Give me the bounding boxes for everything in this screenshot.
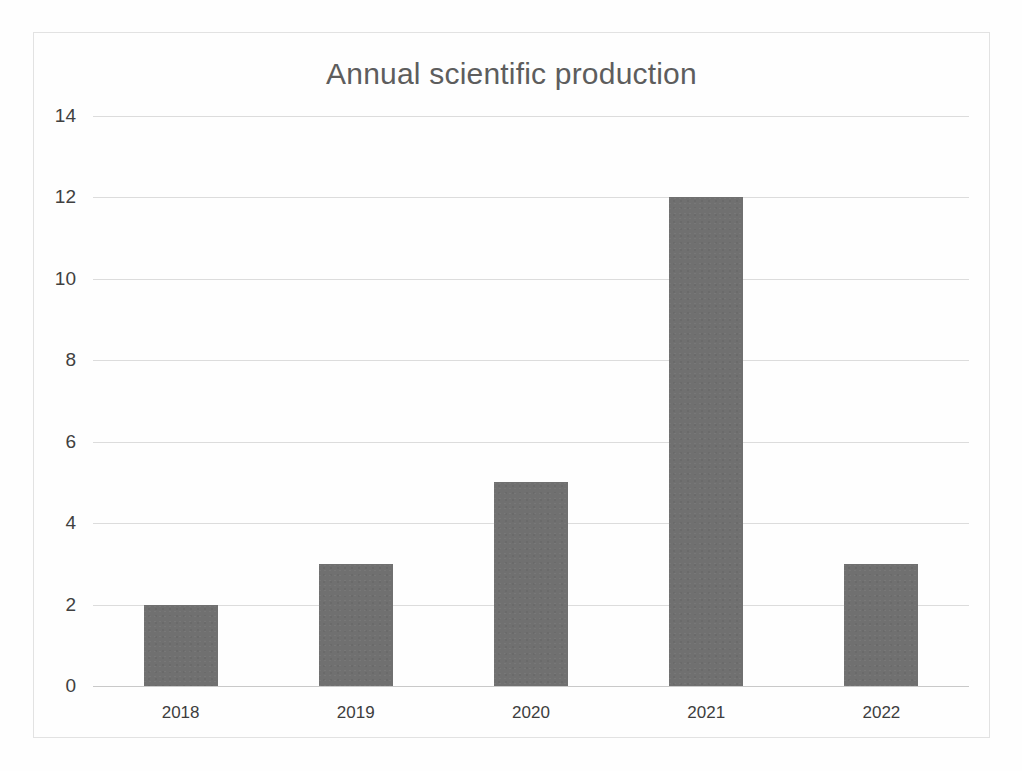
y-axis-label-6: 6	[65, 431, 76, 453]
bar-2018[interactable]	[144, 605, 218, 686]
y-axis-label-8: 8	[65, 349, 76, 371]
x-axis-label-2020: 2020	[512, 703, 550, 723]
y-axis-label-14: 14	[55, 105, 76, 127]
bars-group: 20182019202020212022	[93, 116, 969, 686]
chart-frame: Annual scientific production 02468101214…	[33, 32, 990, 738]
x-axis-label-2022: 2022	[862, 703, 900, 723]
y-axis-label-10: 10	[55, 268, 76, 290]
plot-area: 02468101214 20182019202020212022	[93, 116, 969, 686]
y-axis-label-12: 12	[55, 186, 76, 208]
gridline-0	[93, 686, 969, 687]
chart-title: Annual scientific production	[34, 57, 989, 91]
y-axis-label-2: 2	[65, 594, 76, 616]
bar-group-2020: 2020	[443, 116, 618, 686]
y-axis-label-0: 0	[65, 675, 76, 697]
x-axis-label-2021: 2021	[687, 703, 725, 723]
x-axis-label-2018: 2018	[162, 703, 200, 723]
bar-group-2018: 2018	[93, 116, 268, 686]
x-axis-label-2019: 2019	[337, 703, 375, 723]
bar-2019[interactable]	[319, 564, 393, 686]
bar-group-2022: 2022	[794, 116, 969, 686]
bar-2020[interactable]	[494, 482, 568, 686]
bar-group-2021: 2021	[619, 116, 794, 686]
bar-2021[interactable]	[669, 197, 743, 686]
y-axis-label-4: 4	[65, 512, 76, 534]
bar-2022[interactable]	[844, 564, 918, 686]
page-background: Annual scientific production 02468101214…	[0, 0, 1022, 771]
bar-group-2019: 2019	[268, 116, 443, 686]
